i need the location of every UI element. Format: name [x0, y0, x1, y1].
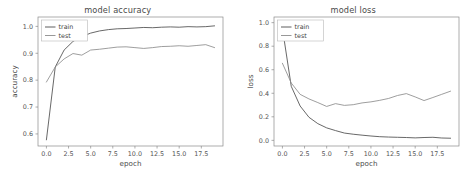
x-axis-label: epoch — [355, 159, 377, 168]
x-tick-label: 10.0 — [363, 150, 377, 158]
series-line-test — [46, 45, 214, 82]
x-tick-label: 2.5 — [299, 150, 309, 158]
legend-label-test: test — [294, 32, 307, 40]
x-axis-label: epoch — [120, 159, 142, 168]
figure-canvas: model accuracy 0.02.55.07.510.012.515.01… — [0, 0, 471, 180]
y-axis-label: loss — [246, 74, 255, 88]
y-tick-label: 0.8 — [23, 76, 33, 84]
legend-label-test: test — [59, 32, 72, 40]
y-tick-label: 0.7 — [23, 103, 33, 111]
x-tick-label: 5.0 — [86, 150, 96, 158]
y-tick-label: 0.9 — [23, 50, 33, 58]
legend-label-train: train — [59, 23, 74, 31]
y-tick-label: 0.6 — [23, 130, 33, 138]
y-tick-label: 0.6 — [258, 66, 268, 74]
y-tick-label: 0.4 — [258, 90, 268, 98]
x-tick-label: 12.5 — [385, 150, 399, 158]
panel-model-loss: model loss 0.02.55.07.510.012.515.017.50… — [236, 0, 471, 180]
legend-label-train: train — [294, 23, 309, 31]
x-tick-label: 17.5 — [194, 150, 208, 158]
loss-plot-area: 0.02.55.07.510.012.515.017.50.00.20.40.6… — [236, 0, 471, 180]
x-tick-label: 7.5 — [108, 150, 118, 158]
x-tick-label: 12.5 — [150, 150, 164, 158]
x-tick-label: 0.0 — [41, 150, 51, 158]
x-tick-label: 0.0 — [277, 150, 287, 158]
x-tick-label: 17.5 — [430, 150, 444, 158]
x-tick-label: 7.5 — [343, 150, 353, 158]
series-line-train — [282, 28, 450, 138]
y-tick-label: 0.8 — [258, 42, 268, 50]
y-axis-label: accuracy — [10, 65, 19, 98]
x-tick-label: 15.0 — [408, 150, 422, 158]
y-tick-label: 0.2 — [258, 113, 268, 121]
series-line-test — [282, 63, 450, 106]
y-tick-label: 1.0 — [23, 23, 33, 31]
panel-model-accuracy: model accuracy 0.02.55.07.510.012.515.01… — [0, 0, 236, 180]
accuracy-plot-area: 0.02.55.07.510.012.515.017.50.60.70.80.9… — [0, 0, 236, 180]
x-tick-label: 15.0 — [172, 150, 186, 158]
y-tick-label: 0.0 — [258, 137, 268, 145]
series-line-train — [46, 26, 214, 140]
y-tick-label: 1.0 — [258, 19, 268, 27]
x-tick-label: 2.5 — [63, 150, 73, 158]
x-tick-label: 5.0 — [321, 150, 331, 158]
x-tick-label: 10.0 — [128, 150, 142, 158]
